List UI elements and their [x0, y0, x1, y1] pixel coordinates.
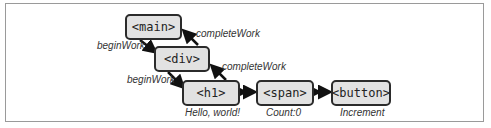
caption-button: Increment — [340, 107, 384, 118]
caption-h1: Hello, world! — [185, 107, 240, 118]
node-main: <main> — [125, 14, 182, 40]
node-h1: <h1> — [182, 80, 240, 106]
begin-work-label-2: beginWork — [127, 74, 175, 85]
node-button: <button> — [331, 80, 391, 106]
complete-work-label-1: completeWork — [196, 28, 260, 39]
node-div: <div> — [154, 46, 210, 72]
complete-work-label-2: completeWork — [222, 61, 286, 72]
node-span: <span> — [256, 80, 314, 106]
begin-work-label-1: beginWork — [97, 40, 145, 51]
caption-span: Count:0 — [266, 107, 301, 118]
